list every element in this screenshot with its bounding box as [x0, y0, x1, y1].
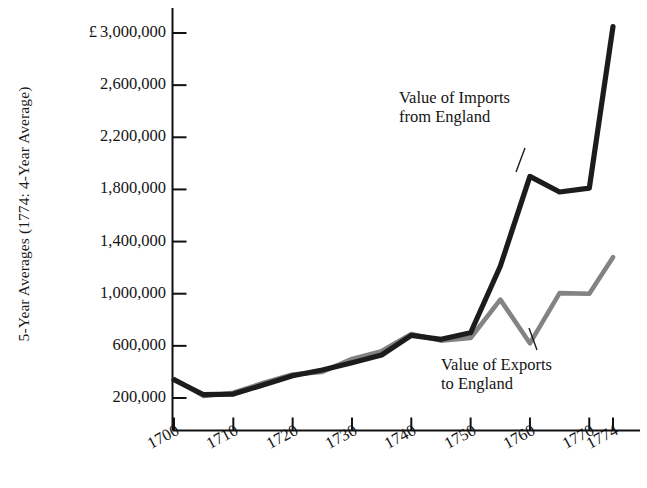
- annotation-exports-line2: to England: [441, 374, 552, 393]
- chart-figure: 5-Year Averages (1774: 4-Year Average) £…: [0, 0, 647, 488]
- series-annotation-exports: Value of Exports to England: [441, 355, 552, 394]
- series-line-imports: [174, 27, 613, 395]
- series-annotation-imports: Value of Imports from England: [399, 88, 510, 127]
- annotation-imports-line1: Value of Imports: [399, 88, 510, 107]
- axes: [173, 8, 641, 431]
- annotation-imports-line2: from England: [399, 107, 510, 126]
- leader-line-imports: [516, 148, 525, 172]
- annotation-exports-line1: Value of Exports: [441, 355, 552, 374]
- data-series: [174, 27, 613, 397]
- plot-area: [0, 0, 647, 488]
